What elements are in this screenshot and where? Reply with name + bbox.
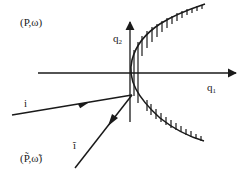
incoming-ray bbox=[12, 95, 132, 115]
label-i-tilde: ĩ bbox=[73, 140, 76, 151]
label-p-omega-tilde: (P̃,ω̃) bbox=[20, 153, 42, 164]
outgoing-ray bbox=[75, 95, 132, 168]
label-i: i bbox=[24, 98, 27, 109]
q2-subscript: 2 bbox=[119, 38, 123, 46]
label-q1: q1 bbox=[207, 82, 216, 95]
label-q2: q2 bbox=[113, 33, 122, 46]
q1-subscript: 1 bbox=[213, 87, 217, 95]
label-p-omega: (P,ω) bbox=[20, 17, 42, 28]
